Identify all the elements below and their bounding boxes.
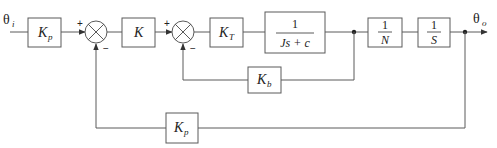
svg-text:K: K bbox=[218, 25, 229, 40]
block-diagram: θ i K p + − K + − K T 1 bbox=[0, 0, 497, 148]
plus-sign: + bbox=[164, 18, 170, 29]
svg-text:1: 1 bbox=[292, 17, 298, 31]
input-signal: θ i bbox=[3, 12, 28, 32]
svg-text:1: 1 bbox=[382, 18, 388, 32]
svg-text:p: p bbox=[183, 127, 189, 137]
svg-text:p: p bbox=[47, 32, 53, 42]
svg-text:K: K bbox=[173, 120, 184, 135]
block-plant: 1 Js + c bbox=[265, 12, 325, 53]
svg-text:Js + c: Js + c bbox=[280, 36, 310, 50]
block-kp-input: K p bbox=[28, 18, 61, 47]
svg-text:b: b bbox=[267, 79, 272, 89]
block-integrator: 1 S bbox=[418, 18, 450, 47]
svg-text:o: o bbox=[482, 18, 487, 28]
output-signal: θ o bbox=[473, 11, 487, 28]
block-kt: K T bbox=[210, 18, 243, 47]
svg-text:θ: θ bbox=[473, 11, 480, 26]
plus-sign: + bbox=[77, 18, 83, 29]
block-gear-ratio: 1 N bbox=[368, 18, 402, 47]
svg-text:K: K bbox=[133, 25, 144, 40]
block-k: K bbox=[122, 18, 155, 47]
minus-sign: − bbox=[190, 43, 196, 54]
input-label: θ bbox=[3, 12, 10, 27]
svg-text:1: 1 bbox=[431, 18, 437, 32]
summing-junction-2: + − bbox=[164, 18, 196, 54]
summing-junction-1: + − bbox=[77, 18, 109, 54]
svg-text:K: K bbox=[256, 72, 267, 87]
svg-text:K: K bbox=[37, 25, 48, 40]
svg-text:N: N bbox=[380, 33, 390, 47]
svg-text:S: S bbox=[431, 33, 437, 47]
minus-sign: − bbox=[103, 43, 109, 54]
input-subscript: i bbox=[12, 19, 15, 29]
